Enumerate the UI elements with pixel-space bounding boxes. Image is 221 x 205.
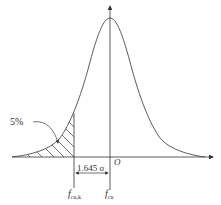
diagram-canvas [0,0,221,205]
normal-distribution-diagram: 5% 1.645 σ O fcu,k fcu [0,0,221,205]
percent-label: 5% [10,116,23,127]
fcuk-subscript: cu,k [71,194,81,200]
fcuk-label: fcu,k [68,188,81,200]
percent-pointer [33,122,58,143]
hatched-tail-area [20,107,80,161]
fcu-subscript: cu [108,194,114,200]
origin-label: O [114,157,121,167]
sigma-label: 1.645 σ [77,163,104,173]
fcu-label: fcu [105,188,113,200]
bell-curve [12,18,205,157]
